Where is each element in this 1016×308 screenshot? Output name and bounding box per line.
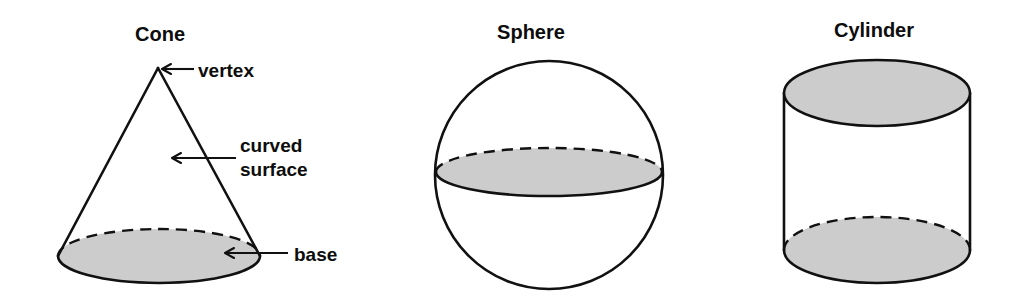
- solid-shapes-diagram: Cone vertex curved surface base Sphere: [0, 0, 1016, 308]
- cone-figure: Cone vertex curved surface base: [58, 23, 337, 283]
- cone-base-label: base: [294, 244, 337, 265]
- cylinder-title: Cylinder: [834, 19, 914, 41]
- cone-curved-surface-label-line2: surface: [240, 159, 308, 180]
- cylinder-figure: Cylinder: [784, 19, 970, 283]
- sphere-figure: Sphere: [435, 21, 663, 289]
- cone-curved-surface-label-line1: curved: [240, 135, 302, 156]
- cone-title: Cone: [135, 23, 185, 45]
- cone-vertex-label: vertex: [198, 60, 254, 81]
- diagram-canvas: Cone vertex curved surface base Sphere: [0, 0, 1016, 308]
- cone-left-slant: [58, 68, 158, 256]
- sphere-title: Sphere: [497, 21, 565, 43]
